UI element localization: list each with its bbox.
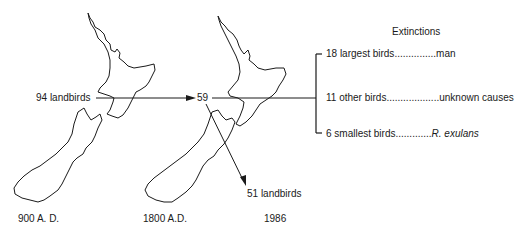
extinction-row: 6 smallest birds.............R. exulans <box>326 128 479 140</box>
count-label-1986: 51 landbirds <box>247 188 301 200</box>
extinction-group: 11 other birds <box>326 92 386 103</box>
south-island-outline-1800 <box>145 110 235 202</box>
north-island-outline-1800 <box>218 16 286 126</box>
south-island-outline-900 <box>14 108 102 202</box>
extinction-cause: man <box>436 48 455 59</box>
date-label-1800: 1800 A.D. <box>143 213 187 225</box>
date-label-900: 900 A. D. <box>18 213 59 225</box>
leader-dots: ............... <box>394 48 436 59</box>
arrow-head-icon <box>186 95 196 101</box>
extinctions-title: Extinctions <box>392 26 440 38</box>
count-label-1800: 59 <box>197 92 208 104</box>
extinction-cause: R. exulans <box>432 128 479 139</box>
leader-dots: ................... <box>386 92 439 103</box>
extinction-row: 11 other birds...................unknown… <box>326 92 514 104</box>
date-label-1986: 1986 <box>264 213 286 225</box>
extinction-row: 18 largest birds...............man <box>326 48 456 60</box>
leader-dots: ............. <box>395 128 431 139</box>
diagram-canvas <box>0 0 524 236</box>
extinction-group: 18 largest birds <box>326 48 394 59</box>
extinction-group: 6 smallest birds <box>326 128 395 139</box>
count-label-900: 94 landbirds <box>36 92 90 104</box>
arrow-1800-to-1986 <box>206 104 243 180</box>
extinction-cause: unknown causes <box>439 92 514 103</box>
north-island-outline-900 <box>88 13 155 118</box>
